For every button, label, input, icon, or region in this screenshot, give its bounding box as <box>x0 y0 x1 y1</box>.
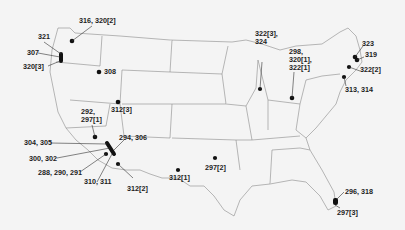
marker-312-1 <box>176 168 180 172</box>
marker-label: 296, 318 <box>345 188 373 196</box>
marker-label: 312[1] <box>169 174 190 182</box>
marker-label: 294, 306 <box>119 134 147 142</box>
marker-label: 312[3] <box>111 106 132 114</box>
marker-308 <box>97 70 102 75</box>
marker-label: 288, 290, 291 <box>38 169 82 177</box>
marker-label: 304, 305 <box>24 139 52 147</box>
marker-label: 322[3], 324 <box>255 30 278 46</box>
marker-label: 292, 297[1] <box>81 108 102 124</box>
marker-label: 297[2] <box>205 164 226 172</box>
marker-label: 320[3] <box>23 63 44 71</box>
marker-297-2 <box>213 156 217 160</box>
marker-label: 308 <box>104 68 116 76</box>
marker-label: 322[2] <box>360 66 381 74</box>
marker-label: 319 <box>365 51 377 59</box>
marker-label: 300, 302 <box>29 155 57 163</box>
marker-label: 312[2] <box>127 185 148 193</box>
marker-label: 323 <box>362 40 374 48</box>
marker-label: 313, 314 <box>345 86 373 94</box>
marker-312-3 <box>116 100 121 105</box>
marker-label: 307 <box>27 49 39 57</box>
marker-label: 321 <box>38 33 50 41</box>
marker-label: 316, 320[2] <box>79 17 116 25</box>
marker-label: 297[3] <box>337 209 358 217</box>
marker-label: 298, 320[1], 322[1] <box>289 48 312 72</box>
marker-label: 310, 311 <box>84 178 112 186</box>
